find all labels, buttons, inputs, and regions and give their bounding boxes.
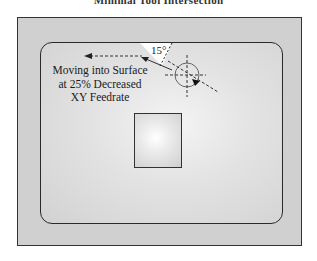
angle-label: 15° (151, 44, 166, 56)
feedrate-annotation: Moving into Surface at 25% Decreased XY … (50, 64, 150, 105)
annotation-line-2: at 25% Decreased (50, 78, 150, 92)
toolpath-overlay (0, 0, 317, 261)
annotation-line-3: XY Feedrate (50, 91, 150, 105)
arrow-left-icon (84, 53, 92, 59)
annotation-line-1: Moving into Surface (50, 64, 150, 78)
